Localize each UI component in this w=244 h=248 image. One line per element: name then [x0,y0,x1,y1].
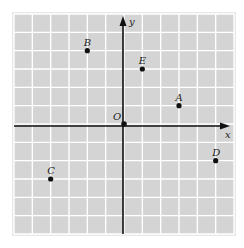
point-marker [48,176,53,181]
point-marker [213,158,218,163]
point-marker [121,121,127,127]
point-label: E [138,55,147,66]
coordinate-plane: x y ABCDEO [0,0,244,248]
point-label: C [47,165,55,176]
point-marker [85,48,90,53]
point-marker [176,103,181,108]
point-label: B [83,37,91,48]
y-axis-label: y [128,16,135,27]
x-axis-label: x [225,129,231,140]
point-label: D [211,147,220,158]
point-label: O [113,111,121,122]
point-label: A [175,92,183,103]
point-marker [140,66,145,71]
